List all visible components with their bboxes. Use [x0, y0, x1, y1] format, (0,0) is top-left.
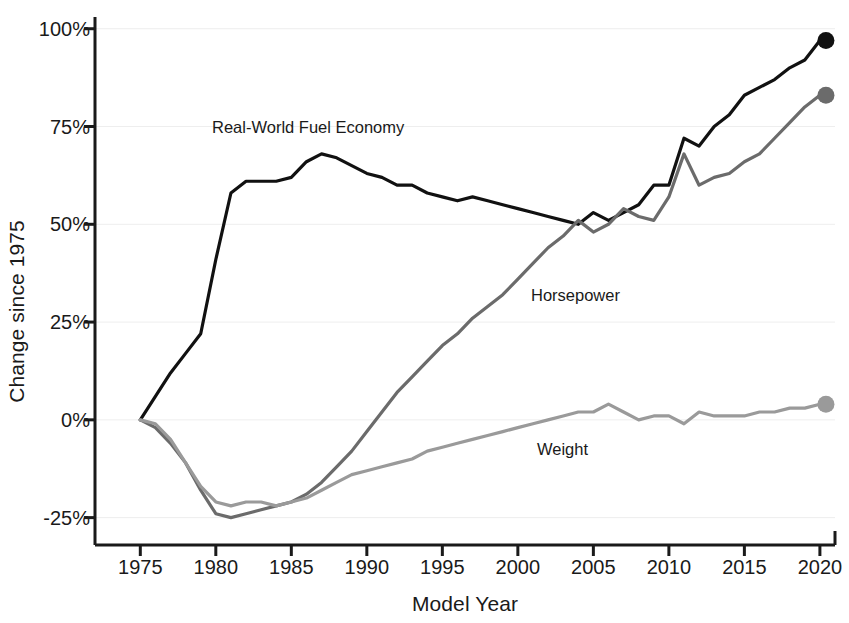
x-tick-label: 1985: [269, 556, 314, 579]
series-label-fuel-economy: Real-World Fuel Economy: [212, 118, 404, 137]
series-endpoint-marker: [817, 32, 834, 49]
series-line: [140, 95, 820, 517]
gridlines: [95, 29, 835, 518]
y-tick-label: 75%: [28, 115, 90, 138]
chart-container: -25%0%25%50%75%100% 19751980198519901995…: [0, 0, 849, 623]
y-tick-label: 50%: [28, 213, 90, 236]
x-tick-label: 1980: [194, 556, 239, 579]
series-endpoint-marker: [817, 87, 834, 104]
y-tick-label: -25%: [28, 506, 90, 529]
x-tick-label: 2020: [798, 556, 843, 579]
x-tick-label: 2000: [496, 556, 541, 579]
y-tick-label: 25%: [28, 311, 90, 334]
x-tick-label: 1990: [345, 556, 390, 579]
series-line: [140, 40, 820, 419]
x-tick-label: 2015: [722, 556, 767, 579]
x-axis-title: Model Year: [95, 592, 835, 616]
data-endpoint-markers: [817, 32, 834, 413]
y-axis-title: Change since 1975: [0, 0, 34, 623]
axis-lines: [95, 17, 835, 545]
x-axis-ticks: [140, 545, 820, 556]
series-label-weight: Weight: [537, 440, 588, 459]
data-series-lines: [140, 40, 820, 517]
series-label-horsepower: Horsepower: [531, 286, 620, 305]
x-tick-label: 2010: [647, 556, 692, 579]
y-tick-label: 0%: [28, 408, 90, 431]
series-endpoint-marker: [817, 396, 834, 413]
x-tick-label: 2005: [571, 556, 616, 579]
y-tick-label: 100%: [28, 17, 90, 40]
y-axis-tick-labels: -25%0%25%50%75%100%: [28, 0, 90, 623]
chart-plot-area: [0, 0, 849, 623]
x-tick-label: 1995: [420, 556, 465, 579]
x-tick-label: 1975: [118, 556, 163, 579]
